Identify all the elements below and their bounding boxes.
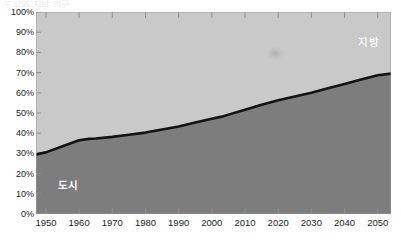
- y-tick-label: 10%: [2, 190, 34, 199]
- top-text-remnant: 도시와 지방 인구: [4, 0, 124, 7]
- x-tick-label: 2050: [358, 217, 398, 229]
- y-tick-label: 80%: [2, 48, 34, 57]
- x-axis: 1950196019701980199020002010202020302040…: [36, 217, 391, 233]
- plot-area: 지방 도시: [36, 12, 391, 214]
- y-tick-label: 40%: [2, 129, 34, 138]
- y-tick-label: 20%: [2, 170, 34, 179]
- y-tick-label: 100%: [2, 8, 34, 17]
- y-tick-label: 60%: [2, 89, 34, 98]
- y-tick-label: 70%: [2, 69, 34, 78]
- series-label-lower: 도시: [58, 177, 79, 192]
- series-label-upper: 지방: [358, 34, 379, 49]
- y-tick-label: 30%: [2, 149, 34, 158]
- y-axis: 100%90%80%70%60%50%40%30%20%10%0%: [0, 12, 34, 214]
- y-tick-label: 50%: [2, 109, 34, 118]
- chart-container: 도시와 지방 인구 100%90%80%70%60%50%40%30%20%10…: [0, 0, 401, 242]
- y-tick-label: 90%: [2, 28, 34, 37]
- area-chart-svg: [36, 12, 391, 214]
